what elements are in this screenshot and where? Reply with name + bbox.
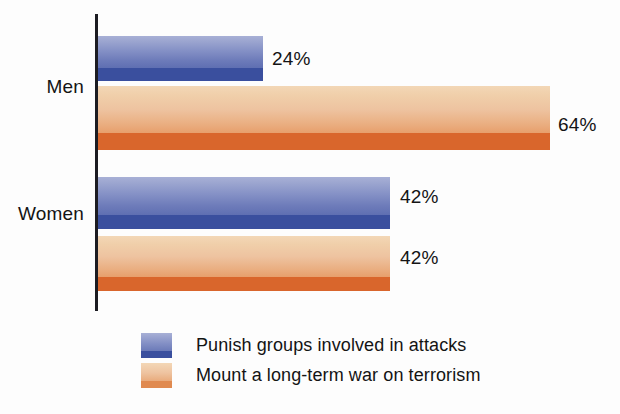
- category-label-women: Women: [0, 203, 84, 225]
- value-label-men-punish-groups: 24%: [272, 48, 311, 70]
- swatch-accent-band: [141, 381, 172, 388]
- bar-fill: [98, 36, 263, 68]
- bar-men-punish-groups: [98, 36, 263, 81]
- bar-fill: [98, 86, 550, 133]
- orange-swatch-icon: [141, 363, 172, 388]
- swatch-accent-band: [141, 351, 172, 358]
- value-label-men-long-term-war: 64%: [558, 114, 597, 136]
- swatch-fill: [141, 333, 172, 351]
- bar-accent-band: [98, 277, 390, 291]
- bar-women-punish-groups: [98, 177, 390, 229]
- value-label-women-long-term-war: 42%: [400, 247, 439, 269]
- bar-men-long-term-war: [98, 86, 550, 150]
- horizontal-bar-chart: Men Women 24% 64% 42% 42% Punish groups …: [0, 0, 620, 414]
- legend-item-long-term-war: Mount a long-term war on terrorism: [141, 360, 481, 390]
- bar-fill: [98, 236, 390, 277]
- chart-legend: Punish groups involved in attacks Mount …: [141, 330, 481, 390]
- bar-women-long-term-war: [98, 236, 390, 291]
- swatch-fill: [141, 363, 172, 381]
- category-label-men: Men: [0, 76, 84, 98]
- blue-swatch-icon: [141, 333, 172, 358]
- legend-item-punish-groups: Punish groups involved in attacks: [141, 330, 481, 360]
- legend-label-long-term-war: Mount a long-term war on terrorism: [196, 365, 481, 386]
- bar-accent-band: [98, 133, 550, 150]
- bar-fill: [98, 177, 390, 215]
- bar-accent-band: [98, 68, 263, 81]
- value-label-women-punish-groups: 42%: [400, 186, 439, 208]
- legend-label-punish-groups: Punish groups involved in attacks: [196, 335, 466, 356]
- bar-accent-band: [98, 215, 390, 229]
